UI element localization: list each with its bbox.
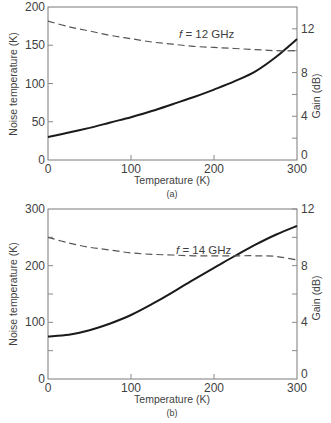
y2-tick-label: 0: [301, 367, 308, 381]
y2-tick-label: 8: [301, 66, 308, 80]
y2-tick-label: 8: [301, 259, 308, 273]
y-tick-label: 0: [38, 153, 45, 167]
y-axis-label: Noise temperature (K): [7, 242, 19, 345]
y-tick-label: 100: [25, 77, 45, 91]
noise-temperature-line: [48, 39, 297, 137]
y2-tick-label: 4: [301, 315, 308, 329]
y-tick-label: 0: [38, 372, 45, 386]
frequency-annotation: f = 12 GHz: [179, 28, 235, 40]
x-axis-label: Temperature (K): [134, 174, 210, 186]
y2-tick-label: 4: [301, 109, 308, 123]
panel-label: (a): [167, 189, 178, 199]
y-tick-label: 150: [25, 38, 45, 52]
panel-label: (b): [167, 408, 178, 418]
frequency-annotation: f = 14 GHz: [176, 244, 232, 256]
noise-temperature-line: [48, 226, 297, 337]
y-tick-label: 200: [25, 0, 45, 14]
y-tick-label: 300: [25, 202, 45, 216]
y2-axis-label: Gain (dB): [310, 74, 322, 119]
x-tick-label: 0: [45, 381, 52, 395]
axis-ticks: 010020030005010015020004812: [25, 0, 315, 176]
axis-ticks: 0100200300010020030004812: [25, 202, 315, 395]
x-tick-label: 0: [45, 162, 52, 176]
gain-line: [48, 21, 297, 51]
plot-frame: [48, 209, 297, 379]
y-tick-label: 50: [32, 115, 46, 129]
y2-tick-label: 0: [301, 148, 308, 162]
gain-line: [48, 237, 297, 260]
y2-tick-label: 12: [301, 22, 315, 36]
x-tick-label: 300: [287, 162, 307, 176]
chart-figure: 010020030005010015020004812 f = 12 GHz N…: [0, 0, 331, 423]
chart-panel-a: 010020030005010015020004812 f = 12 GHz N…: [7, 0, 322, 199]
x-tick-label: 300: [287, 381, 307, 395]
y-axis-label: Noise temperature (K): [7, 32, 19, 135]
chart-panel-b: 0100200300010020030004812 f = 14 GHz Noi…: [7, 202, 322, 418]
x-axis-label: Temperature (K): [134, 393, 210, 405]
y2-tick-label: 12: [301, 202, 315, 216]
y-tick-label: 100: [25, 315, 45, 329]
y-tick-label: 200: [25, 259, 45, 273]
y2-axis-label: Gain (dB): [310, 276, 322, 321]
